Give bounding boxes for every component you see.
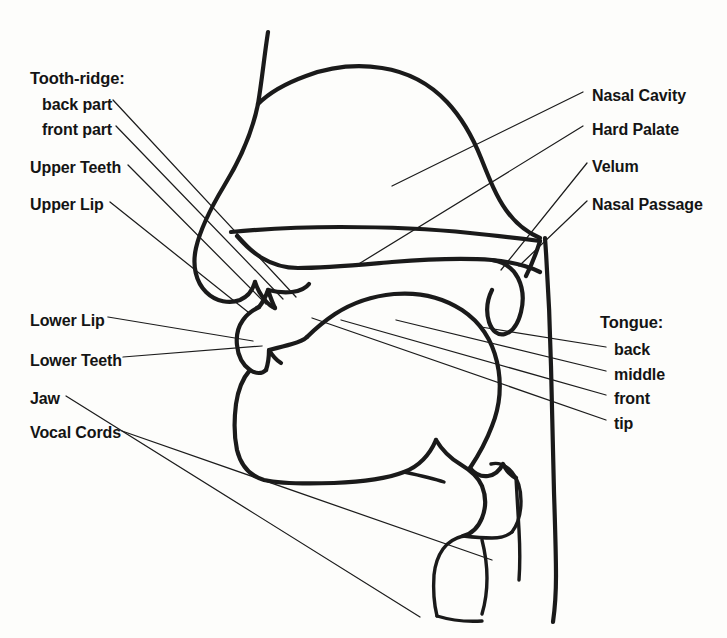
nasal-cavity-dome <box>258 66 540 238</box>
label-upper-lip: Upper Lip <box>30 197 104 213</box>
trachea-front-lower <box>482 540 487 614</box>
label-velum: Velum <box>592 159 639 175</box>
leader-tongue-tip <box>312 318 606 420</box>
lower-lip-inner <box>266 350 281 370</box>
label-tongue-front: front <box>614 391 650 407</box>
label-tongue-middle: middle <box>614 367 665 383</box>
leader-lower-lip <box>108 317 253 341</box>
leader-line-layer <box>66 92 606 617</box>
hyoid-underline <box>404 472 444 482</box>
label-nasal-cavity: Nasal Cavity <box>592 88 686 104</box>
label-tongue-tip: tip <box>614 416 633 432</box>
label-lower-lip: Lower Lip <box>30 313 105 329</box>
label-hard-palate: Hard Palate <box>592 122 679 138</box>
label-jaw: Jaw <box>30 391 60 407</box>
hard-palate-upper-line <box>231 227 540 241</box>
leader-tongue-middle <box>396 320 606 371</box>
leader-hard-palate <box>357 126 583 265</box>
label-tooth-ridge: Tooth-ridge: <box>30 70 125 87</box>
hard-palate-lower-line <box>237 236 540 272</box>
leader-upper-teeth <box>128 165 266 304</box>
label-tongue: Tongue: <box>600 314 663 331</box>
lower-teeth-gumline <box>269 337 307 350</box>
leader-upper-lip <box>110 202 248 312</box>
label-back-part: back part <box>42 97 112 113</box>
leader-back-part <box>113 100 296 297</box>
nose-bridge-profile <box>194 32 268 302</box>
label-nasal-passage: Nasal Passage <box>592 197 703 213</box>
pharynx-lower-back <box>553 576 556 622</box>
label-front-part: front part <box>42 122 112 138</box>
leader-tongue-front <box>341 320 606 395</box>
pharynx-back-wall <box>545 238 556 576</box>
tongue-body <box>307 294 500 468</box>
jaw-chin-profile <box>235 370 436 484</box>
label-tongue-back: back <box>614 342 650 358</box>
leader-vocal-cords <box>122 431 492 560</box>
label-lower-teeth: Lower Teeth <box>30 353 122 369</box>
vocal-tract-diagram: Tooth-ridge:back partfront partUpper Tee… <box>0 0 727 638</box>
neck-front-lower <box>437 616 482 621</box>
anatomy-outline-layer <box>194 32 556 622</box>
lower-lip-outer <box>237 307 266 373</box>
label-upper-teeth: Upper Teeth <box>30 160 121 176</box>
velum-soft-palate <box>487 260 522 334</box>
leader-tongue-back <box>481 327 606 347</box>
label-vocal-cords: Vocal Cords <box>30 425 121 441</box>
